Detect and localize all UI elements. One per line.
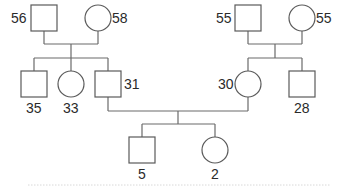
family-lines-left	[34, 31, 108, 71]
person-p2: 58	[85, 5, 128, 31]
age-label: 30	[218, 76, 234, 92]
male-square-icon	[235, 5, 261, 31]
age-label: 5	[138, 166, 146, 182]
female-circle-icon	[58, 71, 84, 97]
age-label: 28	[294, 100, 310, 116]
person-p6: 33	[58, 71, 84, 116]
pedigree-diagram: 56 58 55 55 35 33 31 30 28 5 2	[0, 0, 350, 186]
person-p8: 30	[218, 71, 261, 97]
person-p3: 55	[216, 5, 261, 31]
male-square-icon	[129, 137, 155, 163]
age-label: 2	[211, 166, 219, 182]
person-p4: 55	[289, 5, 332, 31]
female-circle-icon	[235, 71, 261, 97]
female-circle-icon	[202, 137, 228, 163]
person-p9: 28	[289, 71, 315, 116]
age-label: 33	[63, 100, 79, 116]
person-p5: 35	[21, 71, 47, 116]
male-square-icon	[31, 5, 57, 31]
age-label: 56	[11, 10, 27, 26]
male-square-icon	[289, 71, 315, 97]
person-p10: 5	[129, 137, 155, 182]
family-lines-center	[108, 97, 248, 137]
person-p7: 31	[95, 71, 140, 97]
male-square-icon	[95, 71, 121, 97]
female-circle-icon	[289, 5, 315, 31]
age-label: 58	[112, 10, 128, 26]
person-p11: 2	[202, 137, 228, 182]
age-label: 35	[26, 100, 42, 116]
person-p1: 56	[11, 5, 57, 31]
age-label: 31	[124, 76, 140, 92]
male-square-icon	[21, 71, 47, 97]
age-label: 55	[316, 10, 332, 26]
family-lines-right	[248, 31, 302, 71]
age-label: 55	[216, 10, 232, 26]
female-circle-icon	[85, 5, 111, 31]
